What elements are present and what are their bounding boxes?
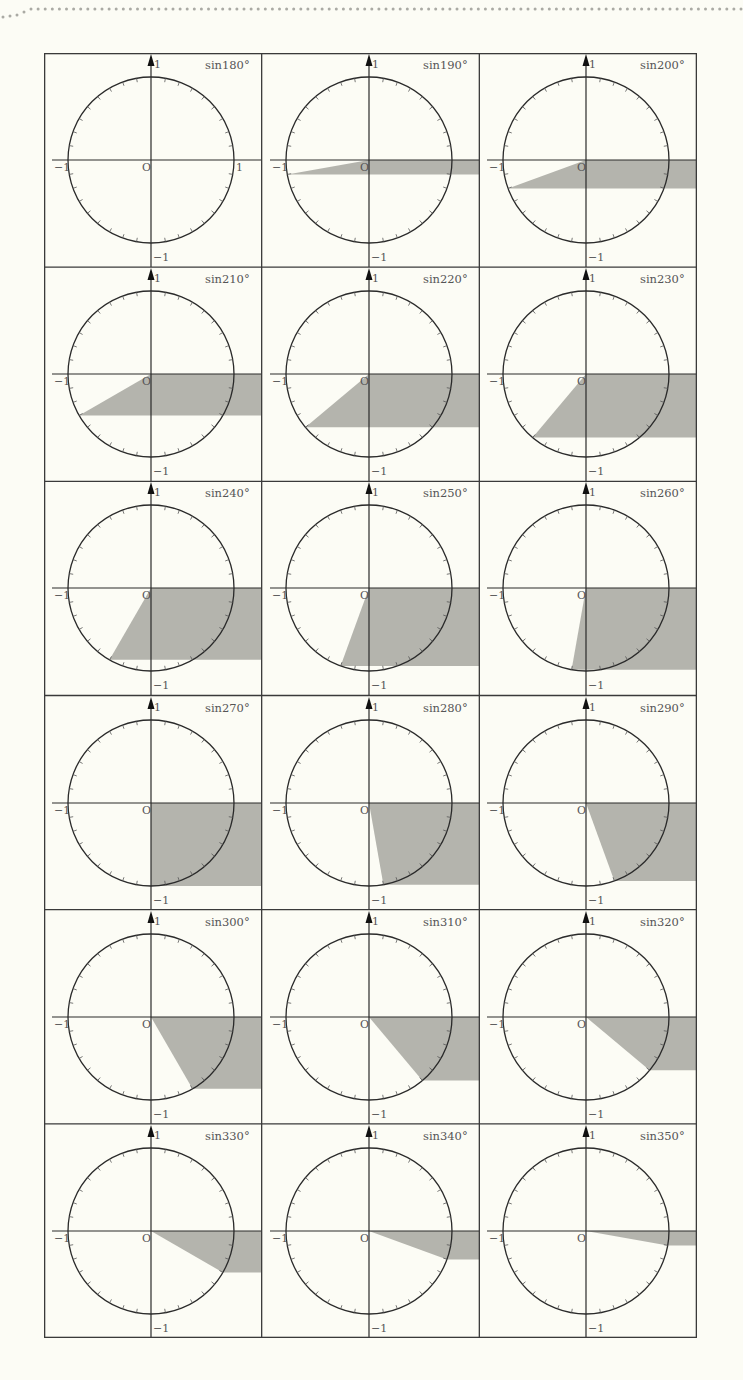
sine-projection-shade (305, 374, 479, 427)
x-left-label: −1 (489, 803, 505, 816)
unit-circle-cell-250: 1−1−1Osin250° (262, 481, 480, 695)
angle-label: sin330° (205, 1129, 250, 1143)
sine-projection-shade (586, 1017, 697, 1070)
sine-projection-shade (109, 588, 261, 660)
y-top-label: 1 (589, 700, 596, 713)
angle-label: sin240° (205, 486, 250, 500)
x-left-label: −1 (489, 375, 505, 388)
y-top-label: 1 (589, 1129, 596, 1142)
y-bottom-label: −1 (588, 465, 604, 478)
unit-circle-diagram: 1−1−1Osin240° (44, 481, 262, 695)
angle-label: sin220° (423, 272, 468, 286)
unit-circle-diagram: 1−1−1Osin190° (262, 53, 480, 267)
y-bottom-label: −1 (153, 679, 169, 692)
angle-label: sin270° (205, 700, 250, 714)
x-left-label: −1 (272, 1018, 288, 1031)
dotted-border-decoration (0, 0, 743, 30)
unit-circle-diagram: 1−1−1Osin210° (44, 267, 262, 481)
y-bottom-label: −1 (588, 1108, 604, 1121)
origin-label: O (577, 803, 586, 816)
unit-circle-diagram: 1−1−1Osin350° (479, 1124, 697, 1338)
unit-circle-cell-320: 1−1−1Osin320° (479, 910, 697, 1124)
unit-circle-diagram: 1−1−1Osin290° (479, 696, 697, 910)
x-right-label: 1 (236, 161, 243, 174)
y-bottom-label: −1 (153, 894, 169, 907)
y-bottom-label: −1 (153, 1108, 169, 1121)
unit-circle-cell-190: 1−1−1Osin190° (262, 53, 480, 267)
y-top-label: 1 (154, 915, 161, 928)
y-top-label: 1 (154, 486, 161, 499)
angle-label: sin190° (423, 58, 468, 72)
x-left-label: −1 (489, 1018, 505, 1031)
origin-label: O (577, 375, 586, 388)
unit-circle-cell-260: 1−1−1Osin260° (479, 481, 697, 695)
x-left-label: −1 (272, 589, 288, 602)
angle-label: sin260° (640, 486, 685, 500)
x-left-label: −1 (272, 375, 288, 388)
x-left-label: −1 (272, 161, 288, 174)
angle-label: sin230° (640, 272, 685, 286)
y-bottom-label: −1 (588, 894, 604, 907)
unit-circle-cell-220: 1−1−1Osin220° (262, 267, 480, 481)
x-left-label: −1 (489, 161, 505, 174)
unit-circle-diagram: 1−1−1Osin250° (262, 481, 480, 695)
unit-circle-cell-310: 1−1−1Osin310° (262, 910, 480, 1124)
unit-circle-cell-300: 1−1−1Osin300° (44, 910, 262, 1124)
unit-circle-diagram: 1−1−1Osin300° (44, 910, 262, 1124)
angle-label: sin310° (423, 915, 468, 929)
sine-projection-shade (369, 1231, 480, 1259)
sine-projection-shade (151, 802, 262, 885)
angle-label: sin180° (205, 58, 250, 72)
sine-projection-shade (369, 1017, 480, 1081)
origin-label: O (360, 589, 369, 602)
y-top-label: 1 (589, 272, 596, 285)
unit-circle-diagram: 1−1−1Osin270° (44, 696, 262, 910)
unit-circle-diagram: 1−1−1Osin330° (44, 1124, 262, 1338)
x-left-label: −1 (489, 589, 505, 602)
origin-label: O (360, 161, 369, 174)
angle-label: sin340° (423, 1129, 468, 1143)
origin-label: O (142, 803, 151, 816)
unit-circle-cell-200: 1−1−1Osin200° (479, 53, 697, 267)
origin-label: O (142, 1232, 151, 1245)
unit-circle-cell-330: 1−1−1Osin330° (44, 1124, 262, 1338)
origin-label: O (142, 161, 151, 174)
y-bottom-label: −1 (371, 679, 387, 692)
unit-circle-diagram: 1−1−1O1sin180° (44, 53, 262, 267)
y-bottom-label: −1 (371, 894, 387, 907)
y-top-label: 1 (154, 700, 161, 713)
origin-label: O (360, 1232, 369, 1245)
sine-projection-shade (586, 1231, 697, 1245)
y-top-label: 1 (154, 272, 161, 285)
y-top-label: 1 (372, 58, 379, 71)
unit-circle-diagram: 1−1−1Osin280° (262, 696, 480, 910)
angle-label: sin350° (640, 1129, 685, 1143)
sine-projection-shade (572, 588, 697, 670)
y-bottom-label: −1 (153, 1322, 169, 1335)
origin-label: O (360, 1018, 369, 1031)
y-bottom-label: −1 (371, 465, 387, 478)
angle-label: sin280° (423, 700, 468, 714)
x-left-label: −1 (54, 1232, 70, 1245)
y-top-label: 1 (372, 486, 379, 499)
sine-projection-shade (151, 1231, 262, 1272)
unit-circle-grid: 1−1−1O1sin180°1−1−1Osin190°1−1−1Osin200°… (44, 53, 697, 1338)
y-bottom-label: −1 (371, 251, 387, 264)
unit-circle-cell-340: 1−1−1Osin340° (262, 1124, 480, 1338)
y-top-label: 1 (154, 1129, 161, 1142)
angle-label: sin200° (640, 58, 685, 72)
angle-label: sin320° (640, 915, 685, 929)
y-top-label: 1 (589, 486, 596, 499)
angle-label: sin290° (640, 700, 685, 714)
x-left-label: −1 (54, 1018, 70, 1031)
y-bottom-label: −1 (371, 1108, 387, 1121)
unit-circle-cell-270: 1−1−1Osin270° (44, 696, 262, 910)
sine-projection-shade (369, 802, 480, 884)
x-left-label: −1 (54, 803, 70, 816)
x-left-label: −1 (272, 803, 288, 816)
unit-circle-cell-350: 1−1−1Osin350° (479, 1124, 697, 1338)
x-left-label: −1 (54, 161, 70, 174)
sine-projection-shade (586, 802, 697, 880)
y-top-label: 1 (372, 272, 379, 285)
origin-label: O (142, 589, 151, 602)
